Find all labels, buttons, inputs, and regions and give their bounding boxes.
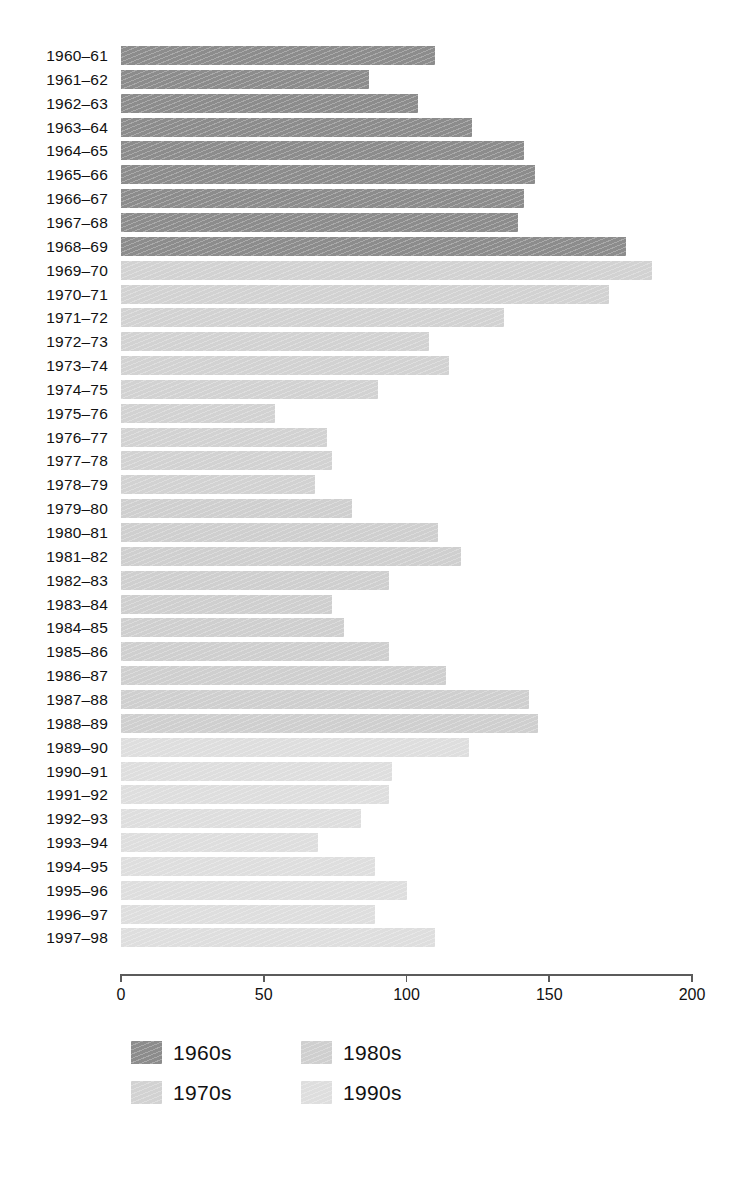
legend-swatch-icon bbox=[131, 1081, 162, 1104]
bar bbox=[121, 690, 529, 709]
chart-row: 1985–86 bbox=[0, 642, 754, 661]
chart-row: 1975–76 bbox=[0, 404, 754, 423]
y-axis-tick-label: 1980–81 bbox=[0, 523, 108, 542]
legend-item: 1960s bbox=[131, 1032, 291, 1072]
x-axis-tick-label: 50 bbox=[255, 985, 273, 1005]
chart-row: 1989–90 bbox=[0, 738, 754, 757]
x-axis-tick-label: 100 bbox=[393, 985, 420, 1005]
bar bbox=[121, 499, 352, 518]
bar bbox=[121, 762, 392, 781]
legend-item: 1970s bbox=[131, 1072, 291, 1112]
y-axis-tick-label: 1985–86 bbox=[0, 642, 108, 661]
y-axis-tick-label: 1996–97 bbox=[0, 905, 108, 924]
y-axis-tick-label: 1962–63 bbox=[0, 94, 108, 113]
y-axis-tick-label: 1961–62 bbox=[0, 70, 108, 89]
y-axis-tick-label: 1986–87 bbox=[0, 666, 108, 685]
legend-label: 1970s bbox=[173, 1081, 232, 1104]
bar bbox=[121, 905, 375, 924]
y-axis-tick-label: 1983–84 bbox=[0, 595, 108, 614]
chart-row: 1981–82 bbox=[0, 547, 754, 566]
y-axis-tick-label: 1989–90 bbox=[0, 738, 108, 757]
x-axis-tick bbox=[691, 974, 693, 982]
chart-row: 1966–67 bbox=[0, 189, 754, 208]
y-axis-tick-label: 1969–70 bbox=[0, 261, 108, 280]
y-axis-tick-label: 1963–64 bbox=[0, 118, 108, 137]
legend-item: 1980s bbox=[301, 1032, 461, 1072]
bar bbox=[121, 571, 389, 590]
y-axis-tick-label: 1964–65 bbox=[0, 141, 108, 160]
chart-row: 1965–66 bbox=[0, 165, 754, 184]
bar bbox=[121, 308, 504, 327]
chart-row: 1971–72 bbox=[0, 308, 754, 327]
x-axis-tick-label: 0 bbox=[117, 985, 126, 1005]
chart-row: 1980–81 bbox=[0, 523, 754, 542]
bar bbox=[121, 857, 375, 876]
bar bbox=[121, 475, 315, 494]
y-axis-tick-label: 1981–82 bbox=[0, 547, 108, 566]
y-axis-tick-label: 1971–72 bbox=[0, 308, 108, 327]
x-axis-tick bbox=[120, 974, 122, 982]
bar bbox=[121, 881, 407, 900]
chart-row: 1970–71 bbox=[0, 285, 754, 304]
chart-row: 1977–78 bbox=[0, 451, 754, 470]
bar bbox=[121, 523, 438, 542]
chart-row: 1973–74 bbox=[0, 356, 754, 375]
y-axis-tick-label: 1995–96 bbox=[0, 881, 108, 900]
chart-row: 1993–94 bbox=[0, 833, 754, 852]
bar bbox=[121, 332, 429, 351]
y-axis-tick-label: 1972–73 bbox=[0, 332, 108, 351]
y-axis-tick-label: 1994–95 bbox=[0, 857, 108, 876]
y-axis-tick-label: 1973–74 bbox=[0, 356, 108, 375]
y-axis-tick-label: 1978–79 bbox=[0, 475, 108, 494]
chart-row: 1969–70 bbox=[0, 261, 754, 280]
bar bbox=[121, 618, 344, 637]
bar bbox=[121, 94, 418, 113]
chart-row: 1961–62 bbox=[0, 70, 754, 89]
bar bbox=[121, 547, 461, 566]
bar bbox=[121, 70, 369, 89]
chart-row: 1988–89 bbox=[0, 714, 754, 733]
bar bbox=[121, 809, 361, 828]
bar bbox=[121, 380, 378, 399]
chart-row: 1960–61 bbox=[0, 46, 754, 65]
y-axis-tick-label: 1984–85 bbox=[0, 618, 108, 637]
y-axis-tick-label: 1997–98 bbox=[0, 928, 108, 947]
x-axis-tick bbox=[548, 974, 550, 982]
chart-row: 1964–65 bbox=[0, 141, 754, 160]
y-axis-tick-label: 1960–61 bbox=[0, 46, 108, 65]
chart-row: 1986–87 bbox=[0, 666, 754, 685]
y-axis-tick-label: 1976–77 bbox=[0, 428, 108, 447]
y-axis-tick-label: 1992–93 bbox=[0, 809, 108, 828]
chart-row: 1996–97 bbox=[0, 905, 754, 924]
chart-row: 1994–95 bbox=[0, 857, 754, 876]
bar bbox=[121, 642, 389, 661]
bar bbox=[121, 833, 318, 852]
y-axis-tick-label: 1990–91 bbox=[0, 762, 108, 781]
bar bbox=[121, 451, 332, 470]
chart-row: 1972–73 bbox=[0, 332, 754, 351]
y-axis-tick-label: 1974–75 bbox=[0, 380, 108, 399]
chart-row: 1963–64 bbox=[0, 118, 754, 137]
y-axis-tick-label: 1987–88 bbox=[0, 690, 108, 709]
bar bbox=[121, 356, 449, 375]
chart-row: 1990–91 bbox=[0, 762, 754, 781]
x-axis: 050100150200 bbox=[0, 974, 754, 1020]
bar bbox=[121, 714, 538, 733]
y-axis-tick-label: 1979–80 bbox=[0, 499, 108, 518]
bar bbox=[121, 738, 469, 757]
chart-row: 1976–77 bbox=[0, 428, 754, 447]
chart-row: 1979–80 bbox=[0, 499, 754, 518]
chart-row: 1983–84 bbox=[0, 595, 754, 614]
legend-swatch-icon bbox=[131, 1041, 162, 1064]
y-axis-tick-label: 1966–67 bbox=[0, 189, 108, 208]
bar bbox=[121, 595, 332, 614]
bar bbox=[121, 237, 626, 256]
y-axis-tick-label: 1975–76 bbox=[0, 404, 108, 423]
y-axis-tick-label: 1967–68 bbox=[0, 213, 108, 232]
bar bbox=[121, 666, 446, 685]
y-axis-tick-label: 1965–66 bbox=[0, 165, 108, 184]
legend-swatch-icon bbox=[301, 1081, 332, 1104]
chart-row: 1974–75 bbox=[0, 380, 754, 399]
chart-row: 1992–93 bbox=[0, 809, 754, 828]
bar bbox=[121, 928, 435, 947]
